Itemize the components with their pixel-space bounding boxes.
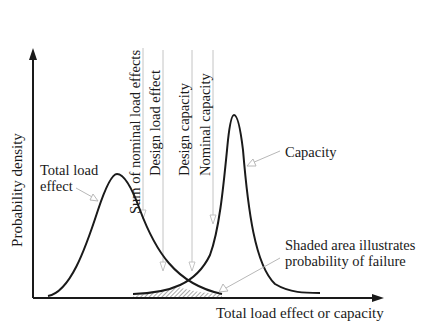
leader-arrow-icon [90,194,98,201]
load-curve-label-line1: Total load [40,162,99,178]
leader-capacity [252,151,280,163]
marker-label-design-load: Design load effect [147,70,163,176]
load-curve-label-line2: effect [40,178,73,194]
marker-label-design-capacity: Design capacity [176,82,192,176]
marker-arrow-icon [210,215,216,224]
y-axis-label: Probability density [9,133,25,247]
leader-arrow-icon [247,159,256,166]
leader-failure [226,258,280,288]
capacity-curve-label: Capacity [285,144,337,160]
marker-label-sum-nominal-load: Sum of nominal load effects [127,50,143,214]
failure-note-line1: Shaded area illustrates [285,237,416,253]
y-axis-arrow-icon [29,48,37,60]
marker-arrow-icon [160,262,166,271]
failure-note-line2: probability of failure [285,253,406,269]
x-axis-arrow-icon [372,294,384,302]
failure-shaded-area [133,286,222,297]
reliability-diagram: Probability density Total load effect or… [0,0,424,325]
marker-arrow-icon [189,262,195,271]
marker-label-nominal-capacity: Nominal capacity [197,73,213,176]
x-axis-label: Total load effect or capacity [216,305,384,321]
